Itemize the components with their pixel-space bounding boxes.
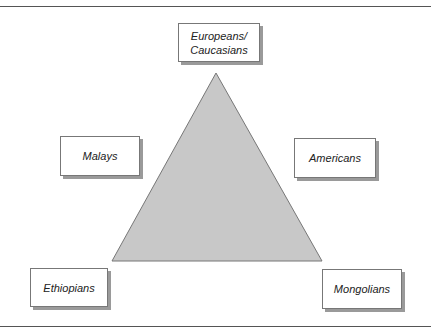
label-europeans-line1: Europeans/ xyxy=(190,29,247,43)
label-box-ethiopians: Ethiopians xyxy=(30,268,108,307)
label-ethiopians: Ethiopians xyxy=(43,281,94,295)
label-box-malays: Malays xyxy=(60,136,140,176)
label-mongolians: Mongolians xyxy=(334,282,390,296)
label-americans: Americans xyxy=(309,151,361,165)
label-box-americans: Americans xyxy=(294,138,376,178)
label-box-europeans: Europeans/ Caucasians xyxy=(178,23,260,62)
label-box-mongolians: Mongolians xyxy=(322,269,402,309)
label-europeans-line2: Caucasians xyxy=(190,43,247,57)
label-malays: Malays xyxy=(83,149,118,163)
